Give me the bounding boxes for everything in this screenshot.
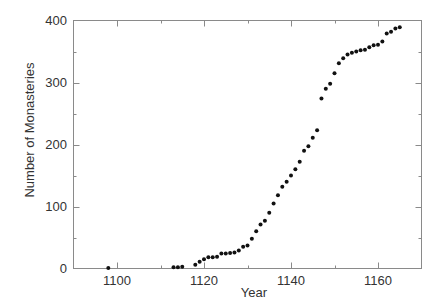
data-point bbox=[393, 27, 397, 31]
data-point bbox=[193, 263, 197, 267]
data-point bbox=[219, 252, 223, 256]
data-point bbox=[341, 56, 345, 60]
data-point bbox=[246, 244, 250, 248]
data-point bbox=[389, 30, 393, 34]
x-tick-label: 1120 bbox=[190, 273, 218, 288]
data-point bbox=[172, 265, 176, 269]
x-tick-label: 1140 bbox=[277, 273, 305, 288]
data-point bbox=[106, 266, 110, 270]
y-tick-labels: 0100200300400 bbox=[45, 13, 67, 276]
data-point bbox=[241, 245, 245, 249]
data-point bbox=[224, 252, 228, 256]
y-tick-label: 0 bbox=[60, 261, 67, 276]
data-point bbox=[228, 251, 232, 255]
data-point bbox=[311, 136, 315, 140]
scatter-chart: 1100112011401160 0100200300400 Year Numb… bbox=[0, 0, 442, 308]
data-point bbox=[280, 185, 284, 189]
axis-ticks bbox=[74, 21, 422, 269]
x-tick-label: 1100 bbox=[103, 273, 131, 288]
data-point bbox=[232, 250, 236, 254]
data-point bbox=[363, 48, 367, 52]
data-point bbox=[359, 48, 363, 52]
data-point bbox=[254, 229, 258, 233]
data-point bbox=[328, 82, 332, 86]
y-tick-label: 200 bbox=[45, 137, 67, 152]
data-point bbox=[202, 257, 206, 261]
y-tick-label: 400 bbox=[45, 13, 67, 28]
data-point bbox=[319, 97, 323, 101]
data-point bbox=[315, 128, 319, 132]
data-point bbox=[337, 61, 341, 65]
data-point bbox=[272, 201, 276, 205]
data-point bbox=[380, 40, 384, 44]
y-tick-label: 100 bbox=[45, 199, 67, 214]
data-point bbox=[324, 87, 328, 91]
data-point bbox=[298, 160, 302, 164]
data-points bbox=[106, 25, 401, 270]
x-tick-label: 1160 bbox=[364, 273, 392, 288]
y-axis-label: Number of Monasteries bbox=[22, 62, 37, 198]
data-point bbox=[198, 260, 202, 264]
data-point bbox=[263, 219, 267, 223]
data-point bbox=[215, 255, 219, 259]
data-point bbox=[333, 71, 337, 75]
data-point bbox=[285, 180, 289, 184]
data-point bbox=[293, 167, 297, 171]
x-axis-label: Year bbox=[241, 285, 268, 300]
data-point bbox=[376, 43, 380, 47]
y-tick-label: 300 bbox=[45, 75, 67, 90]
data-point bbox=[267, 211, 271, 215]
plot-frame bbox=[74, 21, 422, 269]
data-point bbox=[180, 265, 184, 269]
data-point bbox=[206, 255, 210, 259]
data-point bbox=[237, 249, 241, 253]
data-point bbox=[398, 25, 402, 29]
data-point bbox=[350, 51, 354, 55]
data-point bbox=[372, 43, 376, 47]
data-point bbox=[302, 149, 306, 153]
data-point bbox=[385, 32, 389, 36]
data-point bbox=[211, 255, 215, 259]
data-point bbox=[276, 193, 280, 197]
data-point bbox=[306, 144, 310, 148]
data-point bbox=[289, 174, 293, 178]
data-point bbox=[354, 50, 358, 54]
data-point bbox=[367, 45, 371, 49]
data-point bbox=[176, 265, 180, 269]
data-point bbox=[250, 237, 254, 241]
data-point bbox=[346, 53, 350, 57]
data-point bbox=[259, 222, 263, 226]
